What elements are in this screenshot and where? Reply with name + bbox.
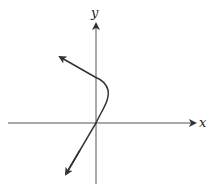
curve-lower-arrow	[66, 150, 80, 174]
x-axis-label: x	[199, 115, 207, 130]
coordinate-plane: x y	[0, 0, 207, 190]
y-axis-label: y	[90, 5, 99, 20]
curve	[60, 57, 108, 174]
